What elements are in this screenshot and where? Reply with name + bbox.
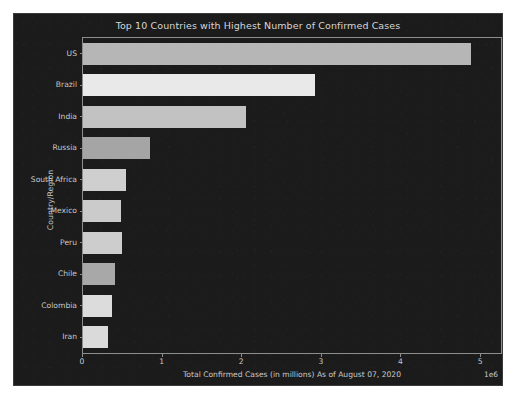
y-tick-mark — [80, 53, 83, 54]
x-axis-label: Total Confirmed Cases (in millions) As o… — [82, 370, 502, 379]
y-tick-mark — [80, 305, 83, 306]
x-tick-label: 5 — [478, 358, 483, 366]
plot-area: USBrazilIndiaRussiaSouth AfricaMexicoPer… — [82, 37, 502, 354]
bar-row: US — [83, 38, 501, 70]
x-tick-label: 4 — [398, 358, 403, 366]
bar-row: Colombia — [83, 290, 501, 322]
bar-russia — [83, 137, 150, 159]
bar-series: USBrazilIndiaRussiaSouth AfricaMexicoPer… — [83, 38, 501, 353]
bar-us — [83, 43, 471, 65]
bar-row: India — [83, 101, 501, 133]
y-tick-label: Chile — [58, 270, 77, 278]
bar-colombia — [83, 295, 112, 317]
bar-row: Iran — [83, 322, 501, 354]
x-axis-offset-text: 1e6 — [484, 370, 498, 379]
bar-brazil — [83, 74, 315, 96]
y-tick-mark — [80, 337, 83, 338]
x-tick-label: 2 — [239, 358, 244, 366]
bar-mexico — [83, 200, 121, 222]
y-tick-label: Mexico — [50, 207, 77, 215]
chart-title: Top 10 Countries with Highest Number of … — [14, 20, 502, 31]
x-tick-label: 0 — [80, 358, 85, 366]
y-tick-label: Brazil — [56, 81, 77, 89]
y-tick-mark — [80, 179, 83, 180]
y-tick-label: US — [67, 50, 77, 58]
bar-south-africa — [83, 169, 126, 191]
y-tick-mark — [80, 85, 83, 86]
matplotlib-figure: Top 10 Countries with Highest Number of … — [13, 13, 503, 386]
y-tick-mark — [80, 242, 83, 243]
bar-row: Russia — [83, 133, 501, 165]
y-tick-label: Russia — [53, 144, 77, 152]
y-tick-mark — [80, 211, 83, 212]
x-tick-label: 1 — [159, 358, 164, 366]
y-tick-label: Iran — [62, 333, 77, 341]
y-tick-label: Colombia — [41, 302, 77, 310]
y-tick-mark — [80, 116, 83, 117]
bar-peru — [83, 232, 122, 254]
screenshot-root: Top 10 Countries with Highest Number of … — [0, 0, 516, 402]
bar-row: Peru — [83, 227, 501, 259]
x-axis-ticks: 012345 — [82, 354, 502, 370]
y-tick-mark — [80, 274, 83, 275]
bar-chile — [83, 263, 115, 285]
bar-row: Chile — [83, 259, 501, 291]
y-tick-label: India — [58, 113, 77, 121]
x-tick-label: 3 — [318, 358, 323, 366]
bar-row: South Africa — [83, 164, 501, 196]
bar-india — [83, 106, 246, 128]
y-tick-label: Peru — [60, 239, 77, 247]
y-tick-mark — [80, 148, 83, 149]
y-tick-label: South Africa — [31, 176, 77, 184]
bar-row: Brazil — [83, 70, 501, 102]
bar-iran — [83, 326, 108, 348]
bar-row: Mexico — [83, 196, 501, 228]
